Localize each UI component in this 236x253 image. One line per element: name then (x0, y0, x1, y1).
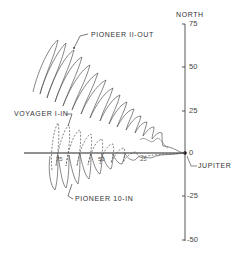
x-tick-25: 25 (140, 156, 147, 163)
voyager-1-in-label: VOYAGER I-IN (14, 110, 69, 118)
y-tick-75: 75 (189, 20, 197, 28)
pioneer-10-in-label: PIONEER 10-IN (75, 195, 133, 203)
pioneer-10-in-trajectory (49, 153, 185, 190)
y-tick-25: 25 (189, 107, 197, 115)
y-tick-0: 0 (189, 149, 193, 157)
north-axis-title: NORTH (176, 11, 204, 19)
y-tick-minus-25: -25 (187, 192, 198, 200)
y-tick-minus-50: -50 (187, 236, 198, 244)
pioneer-11-approach-wiggle (140, 138, 168, 148)
pioneer-11-out-trajectory (33, 40, 185, 153)
y-tick-50: 50 (189, 63, 197, 71)
pioneer-11-leader-line (74, 34, 88, 48)
jupiter-leader-line (187, 156, 197, 166)
pioneer-11-out-label: PIONEER II-OUT (91, 31, 154, 39)
pioneer-10-leader-line (68, 184, 73, 199)
voyager-1-in-trajectory (51, 123, 185, 170)
x-tick-50: 50 (98, 156, 105, 163)
jupiter-label: JUPITER (198, 162, 231, 170)
x-tick-75: 75 (56, 156, 63, 163)
vertical-axis (182, 24, 185, 241)
